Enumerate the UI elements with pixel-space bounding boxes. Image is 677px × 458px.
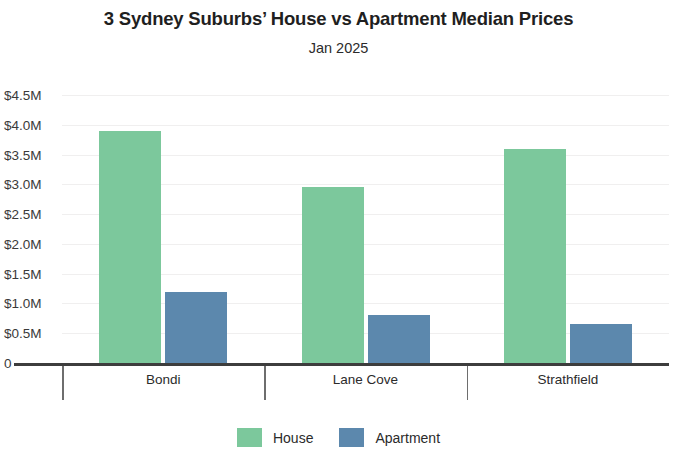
bar-bondi-apartment: [165, 292, 227, 363]
y-axis-tick-label: $2.0M: [4, 236, 58, 251]
x-axis-category-label: Strathfield: [467, 372, 669, 387]
bar-chart: 3 Sydney Suburbs’ House vs Apartment Med…: [0, 0, 677, 458]
bar-strathfield-house: [504, 149, 566, 363]
gridline: [62, 95, 669, 96]
bar-bondi-house: [99, 131, 161, 363]
y-axis-tick-label: $4.0M: [4, 117, 58, 132]
plot-area: [62, 95, 669, 363]
y-axis-tick-label: $4.5M: [4, 88, 58, 103]
x-axis-separator: [264, 366, 266, 400]
y-axis-tick-label: $1.0M: [4, 296, 58, 311]
chart-legend: HouseApartment: [0, 428, 677, 447]
y-axis-tick-label: $3.0M: [4, 177, 58, 192]
y-axis-tick-label: $3.5M: [4, 147, 58, 162]
x-axis-category-label: Lane Cove: [264, 372, 466, 387]
x-axis-category-label: Bondi: [62, 372, 264, 387]
legend-swatch-apartment: [339, 428, 364, 447]
bar-lane-cove-house: [302, 187, 364, 363]
y-axis-tick-label: $0.5M: [4, 326, 58, 341]
legend-swatch-house: [237, 428, 262, 447]
gridline: [62, 125, 669, 126]
bar-lane-cove-apartment: [368, 315, 430, 363]
x-axis-separator: [62, 366, 64, 400]
legend-item-apartment[interactable]: Apartment: [339, 428, 440, 447]
x-axis-separator: [467, 366, 469, 400]
y-axis-tick-label: $2.5M: [4, 207, 58, 222]
bar-strathfield-apartment: [570, 324, 632, 363]
chart-title: 3 Sydney Suburbs’ House vs Apartment Med…: [0, 8, 677, 30]
y-axis-tick-label: $1.5M: [4, 266, 58, 281]
x-axis-line: [14, 363, 669, 366]
legend-label: House: [273, 430, 313, 446]
chart-subtitle: Jan 2025: [0, 40, 677, 56]
legend-label: Apartment: [375, 430, 440, 446]
legend-item-house[interactable]: House: [237, 428, 313, 447]
